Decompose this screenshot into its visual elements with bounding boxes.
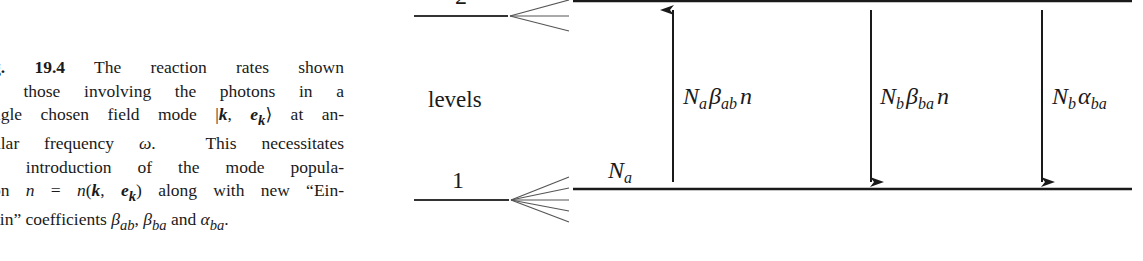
lower-fan	[511, 177, 569, 222]
energy-level-diagram: 2 levels 1 Na Naβabn Nbβban Nbαb	[0, 0, 1143, 261]
level-1: 1 Na	[414, 157, 1132, 222]
transition-absorption: Naβabn	[673, 10, 752, 182]
transition-stimulated-emission: Nbβban	[871, 10, 949, 182]
transition-spontaneous-emission: Nbαba	[1042, 10, 1107, 182]
levels-label: levels	[428, 87, 482, 112]
absorption-rate-label: Naβabn	[682, 83, 752, 112]
level-1-label: 1	[452, 167, 464, 193]
stimulated-emission-rate-label: Nbβban	[879, 83, 949, 112]
level-2: 2	[414, 0, 1132, 31]
population-label: Na	[607, 157, 632, 186]
upper-fan	[510, 0, 569, 31]
spontaneous-emission-rate-label: Nbαba	[1051, 83, 1107, 112]
level-2-label: 2	[455, 0, 467, 9]
